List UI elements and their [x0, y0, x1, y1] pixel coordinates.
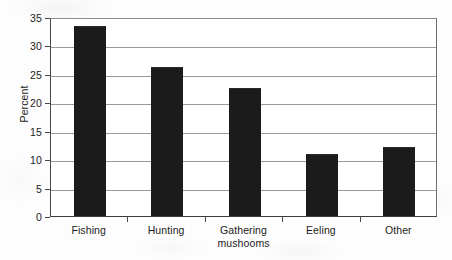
y-axis-label: 25 [0, 69, 42, 81]
y-axis-tick [45, 217, 50, 218]
x-axis-label-line: Other [385, 224, 412, 236]
bar [383, 147, 415, 216]
x-axis-tick [205, 217, 206, 222]
x-axis-label-line: Hunting [148, 224, 185, 236]
bar-chart: Percent 05101520253035 FishingHuntingGat… [0, 0, 452, 260]
x-axis-tick [282, 217, 283, 222]
x-axis-tick [127, 217, 128, 222]
bar [74, 26, 106, 216]
y-axis-label: 10 [0, 154, 42, 166]
bar [229, 88, 261, 216]
bar [151, 67, 183, 216]
y-axis-label: 5 [0, 183, 42, 195]
x-axis-label-line: Eeling [306, 224, 336, 236]
bar [306, 154, 338, 216]
x-axis-category-label: Other [353, 224, 443, 237]
x-axis-label-line: Fishing [71, 224, 106, 236]
gridline [51, 47, 436, 48]
y-axis-label: 35 [0, 12, 42, 24]
x-axis-label-line: mushooms [199, 237, 289, 250]
x-axis-label-line: Gathering [220, 224, 267, 236]
y-axis-label: 30 [0, 40, 42, 52]
gridline [51, 76, 436, 77]
plot-area [50, 18, 437, 217]
y-axis-label: 20 [0, 97, 42, 109]
x-axis-tick [360, 217, 361, 222]
y-axis-label: 15 [0, 126, 42, 138]
y-axis-label: 0 [0, 211, 42, 223]
